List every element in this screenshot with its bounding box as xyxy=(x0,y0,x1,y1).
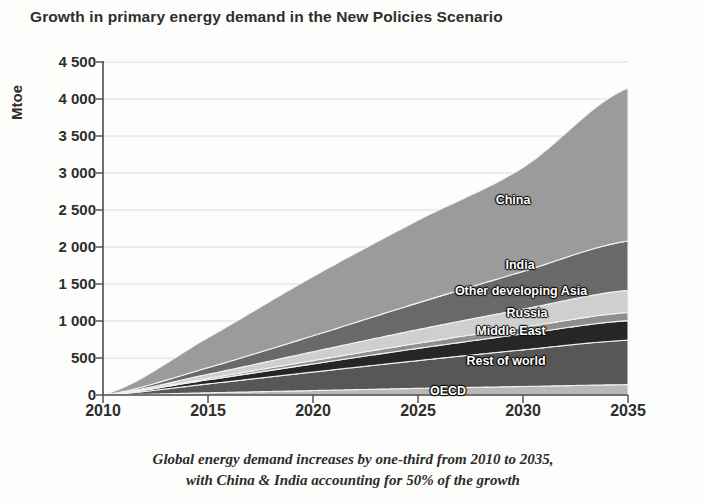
caption-line-1: Global energy demand increases by one-th… xyxy=(0,449,706,470)
figure-container: Growth in primary energy demand in the N… xyxy=(0,0,706,500)
x-tick-2025: 2025 xyxy=(400,402,436,420)
plot-area xyxy=(0,0,706,500)
x-tick-2015: 2015 xyxy=(190,402,226,420)
x-tick-2030: 2030 xyxy=(505,402,541,420)
area-bands xyxy=(103,88,628,395)
x-tick-2010: 2010 xyxy=(85,402,121,420)
x-tick-2020: 2020 xyxy=(295,402,331,420)
x-tick-2035: 2035 xyxy=(610,402,646,420)
figure-caption: Global energy demand increases by one-th… xyxy=(0,449,706,491)
caption-line-2: with China & India accounting for 50% of… xyxy=(0,470,706,491)
stacked-area-plot xyxy=(0,0,706,500)
